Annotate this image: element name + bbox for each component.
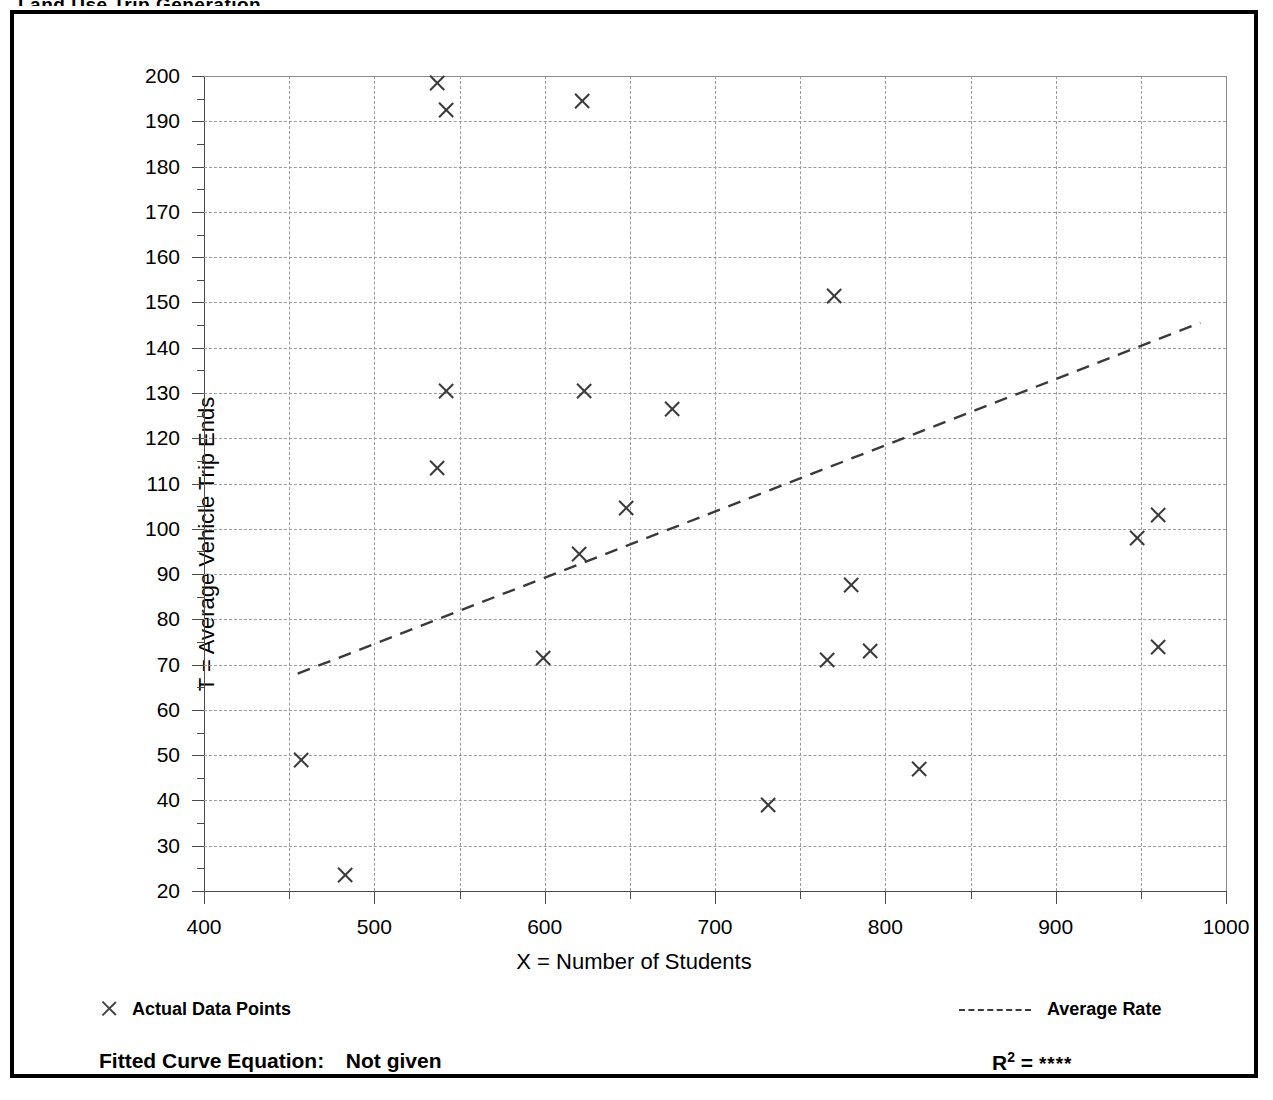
- y-tick-minor: [197, 235, 204, 236]
- y-tick-minor: [197, 189, 204, 190]
- y-tick-major: [192, 574, 204, 575]
- chart-page: Land Use Trip Generation T = Average Veh…: [0, 0, 1273, 1100]
- equation-value: Not given: [346, 1049, 442, 1072]
- plot-area: [204, 76, 1226, 891]
- y-tick-minor: [197, 99, 204, 100]
- y-tick-minor: [197, 551, 204, 552]
- x-tick-major: [715, 891, 716, 904]
- y-tick-minor: [197, 144, 204, 145]
- y-tick-label: 140: [145, 336, 180, 360]
- y-tick-label: 30: [157, 834, 180, 858]
- y-tick-minor: [197, 325, 204, 326]
- x-tick-minor: [800, 891, 801, 899]
- x-axis-title: X = Number of Students: [14, 949, 1254, 975]
- y-tick-label: 170: [145, 200, 180, 224]
- y-tick-major: [192, 76, 204, 77]
- y-tick-major: [192, 393, 204, 394]
- x-tick-minor: [630, 891, 631, 899]
- y-tick-major: [192, 619, 204, 620]
- r2-label: R: [992, 1051, 1007, 1074]
- x-tick-label: 500: [357, 915, 392, 939]
- r-squared-annotation: R2 = ****: [992, 1049, 1073, 1075]
- y-tick-minor: [197, 597, 204, 598]
- x-tick-label: 700: [697, 915, 732, 939]
- y-tick-label: 40: [157, 788, 180, 812]
- y-tick-major: [192, 891, 204, 892]
- fitted-curve-equation: Fitted Curve Equation: Not given: [99, 1049, 442, 1073]
- y-tick-label: 110: [147, 472, 180, 496]
- y-tick-minor: [197, 868, 204, 869]
- y-tick-major: [192, 438, 204, 439]
- y-tick-label: 120: [145, 426, 180, 450]
- cropped-title-fragment: Land Use Trip Generation: [18, 0, 438, 6]
- y-tick-label: 190: [145, 109, 180, 133]
- x-tick-major: [204, 891, 205, 904]
- x-tick-label: 400: [186, 915, 221, 939]
- y-tick-major: [192, 710, 204, 711]
- y-tick-label: 160: [145, 245, 180, 269]
- y-tick-minor: [197, 370, 204, 371]
- equation-label: Fitted Curve Equation:: [99, 1049, 324, 1072]
- legend-label-points: Actual Data Points: [132, 999, 291, 1020]
- y-tick-major: [192, 257, 204, 258]
- right-spine: [1226, 76, 1227, 892]
- y-tick-major: [192, 121, 204, 122]
- average-rate-line: [298, 323, 1201, 674]
- y-tick-minor: [197, 280, 204, 281]
- r2-value: ****: [1039, 1053, 1073, 1074]
- x-tick-major: [374, 891, 375, 904]
- y-tick-minor: [197, 823, 204, 824]
- y-tick-minor: [197, 461, 204, 462]
- y-tick-minor: [197, 642, 204, 643]
- dashed-line-icon: [959, 1009, 1031, 1011]
- y-tick-label: 80: [157, 607, 180, 631]
- x-tick-major: [885, 891, 886, 904]
- y-tick-label: 180: [145, 155, 180, 179]
- y-tick-minor: [197, 687, 204, 688]
- x-tick-major: [1056, 891, 1057, 904]
- y-tick-label: 150: [145, 290, 180, 314]
- x-tick-label: 800: [868, 915, 903, 939]
- y-tick-minor: [197, 506, 204, 507]
- y-tick-label: 50: [157, 743, 180, 767]
- y-tick-major: [192, 846, 204, 847]
- x-tick-major: [545, 891, 546, 904]
- x-tick-label: 1000: [1203, 915, 1250, 939]
- r2-equals: =: [1021, 1051, 1033, 1074]
- y-tick-major: [192, 167, 204, 168]
- y-tick-label: 90: [157, 562, 180, 586]
- y-tick-minor: [197, 778, 204, 779]
- y-tick-major: [192, 529, 204, 530]
- y-tick-major: [192, 302, 204, 303]
- y-tick-minor: [197, 733, 204, 734]
- x-tick-major: [1226, 891, 1227, 904]
- legend-label-line: Average Rate: [1047, 999, 1161, 1020]
- y-tick-major: [192, 755, 204, 756]
- trend-line-layer: [204, 76, 1226, 891]
- y-tick-major: [192, 800, 204, 801]
- x-tick-minor: [289, 891, 290, 899]
- y-tick-label: 100: [145, 517, 180, 541]
- y-tick-label: 60: [157, 698, 180, 722]
- x-tick-minor: [1141, 891, 1142, 899]
- x-cross-icon: [99, 999, 118, 1018]
- y-tick-major: [192, 212, 204, 213]
- y-tick-label: 200: [145, 64, 180, 88]
- y-tick-label: 70: [157, 653, 180, 677]
- x-tick-minor: [460, 891, 461, 899]
- y-tick-label: 20: [157, 879, 180, 903]
- y-tick-major: [192, 484, 204, 485]
- x-tick-minor: [971, 891, 972, 899]
- x-tick-label: 600: [527, 915, 562, 939]
- x-tick-label: 900: [1038, 915, 1073, 939]
- y-tick-minor: [197, 416, 204, 417]
- r2-exponent: 2: [1007, 1049, 1015, 1065]
- y-tick-major: [192, 348, 204, 349]
- chart-frame: T = Average Vehicle Trip Ends X = Number…: [10, 10, 1258, 1078]
- y-tick-major: [192, 665, 204, 666]
- y-tick-label: 130: [145, 381, 180, 405]
